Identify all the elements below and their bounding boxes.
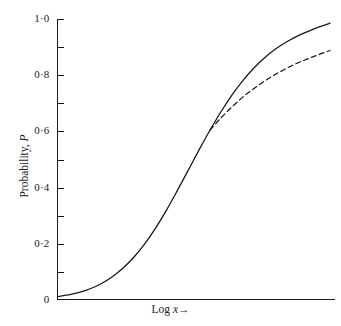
y-axis-tick-label: 1·0 [24,12,50,24]
x-axis-title: Log x→ [0,303,341,315]
series-complete-response-curve [58,23,331,296]
probability-log-x-chart: 1·00·80·60·40·20 Probability, P Log x→ [0,0,341,326]
chart-series-group [58,23,331,296]
y-axis-tick-label: 0·2 [24,237,50,249]
chart-axes [57,19,335,300]
y-axis-ticks [58,20,64,273]
series-partial-response-curve [210,50,330,130]
chart-plot-area [0,0,341,326]
y-axis-title: Probability, P [18,106,30,226]
y-axis-tick-label: 0·8 [24,68,50,80]
